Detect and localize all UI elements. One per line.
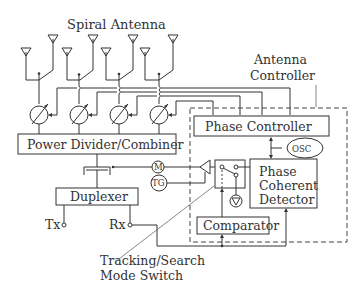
title-spiral-antenna: Spiral Antenna bbox=[67, 17, 166, 32]
power-divider-label: Power Divider/Combiner bbox=[27, 137, 184, 152]
antenna-controller-label: Antenna bbox=[253, 52, 308, 67]
phase-shifter-icon bbox=[110, 104, 132, 134]
tachogenerator-label: TG bbox=[152, 178, 165, 188]
phase-shifter-icon bbox=[30, 104, 52, 134]
tx-label: Tx bbox=[45, 217, 60, 232]
osc-label: OSC bbox=[292, 144, 311, 154]
phase-detector-label-3: Detector bbox=[259, 192, 314, 207]
antenna-icon bbox=[21, 35, 58, 80]
phase-shifter-icon bbox=[150, 104, 172, 134]
mode-switch-label-2: Mode Switch bbox=[100, 268, 183, 283]
mode-switch-label-1: Tracking/Search bbox=[100, 253, 205, 268]
rx-port bbox=[128, 223, 132, 227]
phase-controller-label: Phase Controller bbox=[205, 119, 312, 134]
phase-shifters bbox=[30, 104, 172, 134]
phase-detector-label-1: Phase bbox=[259, 164, 297, 179]
antenna-icon bbox=[62, 35, 98, 80]
spiral-antenna-array bbox=[21, 35, 178, 80]
comparator-label: Comparator bbox=[203, 218, 279, 233]
amplifier-icon bbox=[200, 160, 210, 174]
phase-detector-label-2: Coherent bbox=[259, 178, 318, 193]
motor-label: M bbox=[154, 162, 163, 172]
duplexer-label: Duplexer bbox=[70, 189, 128, 204]
mode-switch-box bbox=[215, 160, 245, 188]
diagram-svg: Spiral Antenna bbox=[0, 0, 351, 292]
antenna-controller-label-2: Controller bbox=[250, 68, 315, 83]
phase-shifter-icon bbox=[70, 104, 92, 134]
tx-port bbox=[62, 223, 66, 227]
rx-label: Rx bbox=[109, 217, 125, 232]
antenna-icon bbox=[101, 35, 138, 80]
antenna-icon bbox=[140, 35, 178, 80]
block-diagram: Spiral Antenna bbox=[0, 0, 351, 292]
